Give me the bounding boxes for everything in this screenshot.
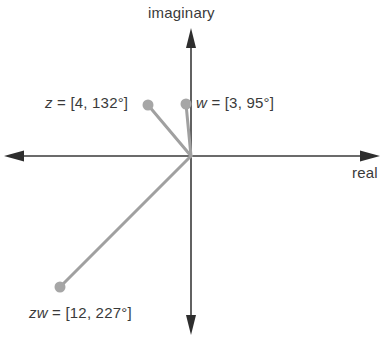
vector-zw-line (60, 156, 191, 287)
vector-z-symbol: z (45, 94, 53, 111)
vector-zw (55, 156, 192, 293)
imaginary-axis-label: imaginary (148, 4, 215, 21)
vector-z-label: z = [4, 132°] (45, 94, 128, 111)
vector-zw-label: zw = [12, 227°] (29, 304, 132, 321)
vector-zw-symbol: zw (29, 304, 48, 321)
imaginary-axis-arrow-top (186, 28, 196, 48)
vector-w-value: = [3, 95°] (207, 94, 274, 111)
real-axis-arrow-left (4, 151, 24, 162)
vector-z-line (148, 105, 191, 156)
vector-zw-point (55, 282, 66, 293)
vector-z-point (143, 100, 154, 111)
imaginary-axis (186, 28, 196, 335)
vector-w-symbol: w (196, 94, 207, 111)
vector-w-point (181, 99, 192, 110)
complex-plane-diagram: imaginary real z = [4, 132°] w = [3, 95°… (0, 0, 392, 340)
real-axis-arrow-right (360, 151, 380, 162)
vector-w-label: w = [3, 95°] (196, 94, 274, 111)
real-axis-label: real (352, 164, 378, 181)
imaginary-axis-arrow-bottom (186, 315, 196, 335)
vector-z-value: = [4, 132°] (53, 94, 129, 111)
vector-zw-value: = [12, 227°] (48, 304, 132, 321)
plot-canvas (0, 0, 392, 340)
